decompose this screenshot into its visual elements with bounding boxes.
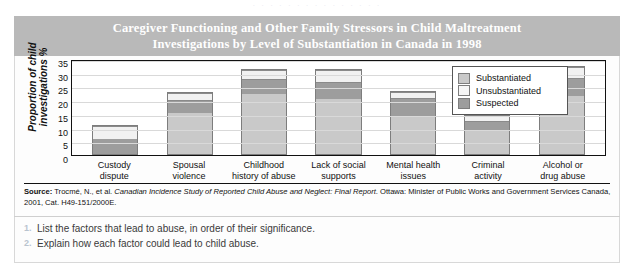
x-label-line: Custody: [77, 160, 152, 171]
x-tickmark-4: [413, 155, 414, 156]
x-label-line: supports: [301, 171, 376, 182]
chart: Proportion of child investigations % 051…: [14, 56, 620, 182]
legend-item-sub: Substantiated: [458, 73, 562, 84]
legend-label-unsub: Unsubstantiated: [476, 86, 541, 96]
x-axis-tick-labels: CustodydisputeSpousalviolenceChildhoodhi…: [71, 160, 606, 184]
bar-segment-susp: [242, 79, 286, 94]
legend-swatch-unsub: [458, 85, 470, 96]
figure-page: · · · · · · · · · · · · · · · Caregiver …: [0, 0, 634, 275]
x-tickmark-6: [562, 155, 563, 156]
figure-title-line-1: Caregiver Functioning and Other Family S…: [113, 20, 522, 36]
y-tick-35: 35: [42, 60, 68, 68]
y-tick-25: 25: [42, 87, 68, 95]
y-tick-10: 10: [42, 129, 68, 137]
source-divider: [24, 183, 610, 184]
x-tickmark-5: [487, 155, 488, 156]
x-label-6: Alcohol ordrug abuse: [525, 160, 600, 184]
x-label-5: Criminalactivity: [451, 160, 526, 184]
y-tick-0: 0: [42, 156, 68, 164]
question-number: 1.: [24, 222, 37, 235]
x-label-line: Spousal: [152, 160, 227, 171]
bar-segment-unsub: [93, 126, 137, 139]
x-label-line: Alcohol or: [525, 160, 600, 171]
y-tick-15: 15: [42, 115, 68, 123]
x-label-line: dispute: [77, 171, 152, 182]
gridline-5: [72, 143, 605, 144]
bar-segment-sub: [391, 116, 435, 154]
x-tickmark-3: [338, 155, 339, 156]
x-tickmark-1: [190, 155, 191, 156]
x-label-0: Custodydispute: [77, 160, 152, 184]
legend-item-unsub: Unsubstantiated: [458, 85, 562, 96]
x-label-line: Lack of social: [301, 160, 376, 171]
page-bottom-divider: [14, 262, 620, 263]
bar-segment-susp: [93, 139, 137, 154]
source-citation: Source: Trocmé, N., et al. Canadian Inci…: [24, 187, 614, 208]
question-text: Explain how each factor could lead to ch…: [37, 237, 259, 250]
gridline-15: [72, 116, 605, 117]
source-label: Source:: [24, 187, 52, 196]
page-top-bleed-text: · · · · · · · · · · · · · · ·: [0, 0, 634, 12]
x-label-line: issues: [376, 171, 451, 182]
x-label-line: violence: [152, 171, 227, 182]
x-label-line: Criminal: [451, 160, 526, 171]
bar-lack-of-social-supports: [315, 69, 361, 155]
question-item-1: 1.List the factors that lead to abuse, i…: [24, 222, 584, 235]
bar-segment-sub: [316, 99, 360, 154]
bar-segment-susp: [391, 98, 435, 115]
bar-segment-susp: [316, 82, 360, 99]
x-label-line: activity: [451, 171, 526, 182]
bar-segment-sub: [168, 113, 212, 154]
questions-list: 1.List the factors that lead to abuse, i…: [24, 222, 584, 252]
x-label-4: Mental healthissues: [376, 160, 451, 184]
x-tickmark-2: [264, 155, 265, 156]
questions-divider: [14, 216, 620, 217]
x-label-2: Childhoodhistory of abuse: [226, 160, 301, 184]
source-before-italic: Trocmé, N., et al.: [52, 187, 114, 196]
x-label-3: Lack of socialsupports: [301, 160, 376, 184]
bar-segment-unsub: [316, 70, 360, 82]
question-item-2: 2.Explain how each factor could lead to …: [24, 237, 584, 250]
bar-criminal-activity: [464, 115, 510, 155]
figure-title-line-2: Investigations by Level of Substantiatio…: [152, 36, 481, 52]
legend-label-susp: Suspected: [476, 98, 519, 108]
x-label-1: Spousalviolence: [152, 160, 227, 184]
legend-item-susp: Suspected: [458, 98, 562, 109]
gridline-10: [72, 130, 605, 131]
legend-swatch-sub: [458, 73, 470, 84]
y-axis-tick-labels: 05101520253035: [42, 60, 68, 156]
x-label-line: Childhood: [226, 160, 301, 171]
y-tick-30: 30: [42, 74, 68, 82]
gridline-35: [72, 61, 605, 62]
chart-legend: SubstantiatedUnsubstantiatedSuspected: [452, 66, 568, 115]
x-label-line: Mental health: [376, 160, 451, 171]
x-tickmark-0: [115, 155, 116, 156]
figure-title-banner: Caregiver Functioning and Other Family S…: [14, 16, 620, 56]
bar-childhood-history-of-abuse: [241, 69, 287, 155]
y-tick-5: 5: [42, 142, 68, 150]
legend-swatch-susp: [458, 98, 470, 109]
legend-label-sub: Substantiated: [476, 73, 531, 83]
bar-mental-health-issues: [390, 91, 436, 155]
source-title-italic: Canadian Incidence Study of Reported Chi…: [114, 187, 375, 196]
question-text: List the factors that lead to abuse, in …: [37, 222, 315, 235]
x-label-line: drug abuse: [525, 171, 600, 182]
question-number: 2.: [24, 237, 37, 250]
y-tick-20: 20: [42, 101, 68, 109]
x-label-line: history of abuse: [226, 171, 301, 182]
y-axis-title-line-1: Proportion of child: [27, 27, 38, 147]
